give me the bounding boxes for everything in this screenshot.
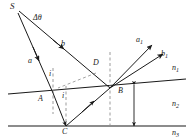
ray-b-incident bbox=[19, 11, 110, 88]
label-medium-n2: n2 bbox=[172, 100, 179, 109]
interface-n1-n2 bbox=[8, 79, 186, 94]
label-source-point-S: S bbox=[10, 2, 15, 11]
label-angle-incidence: i bbox=[49, 70, 51, 78]
label-ray-b1: b1 bbox=[161, 50, 168, 59]
label-film-thickness-B: B bbox=[118, 87, 123, 95]
ray-a-arrowhead bbox=[33, 47, 39, 61]
label-ray-b1-subscript: 1 bbox=[165, 53, 168, 59]
label-point-D: D bbox=[93, 59, 99, 67]
label-n3-subscript: 3 bbox=[176, 132, 179, 138]
diagram-canvas bbox=[0, 0, 193, 140]
label-point-C: C bbox=[62, 128, 67, 136]
ray-reflected-arrowhead bbox=[82, 101, 94, 112]
label-point-A: A bbox=[38, 95, 43, 103]
label-divergence-angle: Δθ bbox=[33, 14, 42, 22]
optics-ray-diagram: S Δθ a b i i A C D a1 b1 B n1 n2 n3 bbox=[0, 0, 193, 140]
label-medium-n3: n3 bbox=[172, 129, 179, 138]
label-ray-a: a bbox=[28, 57, 32, 65]
construction-line-D-A bbox=[58, 73, 96, 88]
label-medium-n1: n1 bbox=[172, 64, 179, 73]
label-ray-a1: a1 bbox=[136, 36, 143, 45]
label-n2-subscript: 2 bbox=[176, 103, 179, 109]
label-n1-subscript: 1 bbox=[176, 67, 179, 73]
label-angle-refraction: i bbox=[62, 92, 64, 100]
ray-a1-outgoing bbox=[110, 45, 152, 88]
label-ray-a1-subscript: 1 bbox=[140, 39, 143, 45]
label-ray-b: b bbox=[61, 40, 65, 48]
